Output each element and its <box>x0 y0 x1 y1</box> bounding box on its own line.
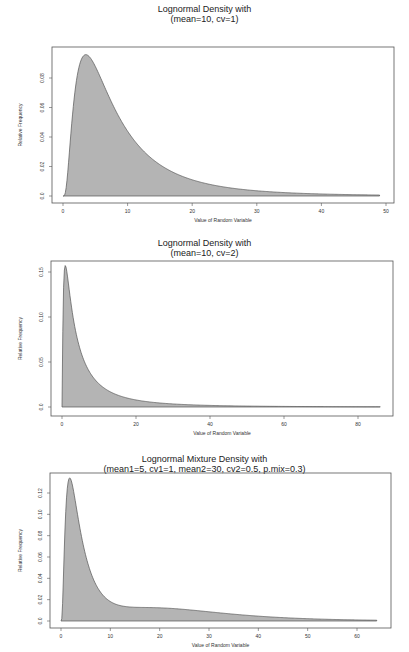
y-tick-label: 0.05 <box>38 357 44 367</box>
plots-canvas: 010203040500.00.020.040.060.08Value of R… <box>0 0 409 652</box>
x-tick-label: 40 <box>207 421 213 427</box>
x-axis-label: Value of Random Variable <box>193 430 251 436</box>
x-tick-label: 30 <box>254 208 260 214</box>
y-tick-label: 0.15 <box>38 267 44 277</box>
x-tick-label: 60 <box>281 421 287 427</box>
y-tick-label: 0.04 <box>37 573 43 583</box>
y-tick-label: 0.02 <box>37 595 43 605</box>
y-tick-label: 0.06 <box>39 102 45 112</box>
x-tick-label: 40 <box>256 633 262 639</box>
x-tick-label: 40 <box>319 208 325 214</box>
y-tick-label: 0.06 <box>37 552 43 562</box>
density-area <box>61 478 377 621</box>
chart-3: 01020304050600.00.020.040.060.080.100.12… <box>17 473 391 648</box>
x-tick-label: 10 <box>108 633 114 639</box>
x-tick-label: 80 <box>355 421 361 427</box>
density-area <box>62 266 380 407</box>
x-axis-label: Value of Random Variable <box>192 642 250 648</box>
x-tick-label: 50 <box>305 633 311 639</box>
x-tick-label: 60 <box>354 633 360 639</box>
y-tick-label: 0.0 <box>37 617 43 624</box>
y-axis-label: Relative Frequency <box>17 316 23 360</box>
x-axis-label: Value of Random Variable <box>194 217 252 223</box>
y-tick-label: 0.10 <box>37 509 43 519</box>
x-tick-label: 10 <box>125 208 131 214</box>
y-tick-label: 0.08 <box>39 73 45 83</box>
y-tick-label: 0.0 <box>38 403 44 410</box>
x-tick-label: 30 <box>206 633 212 639</box>
y-axis-label: Relative Frequency <box>17 528 23 572</box>
x-tick-label: 20 <box>189 208 195 214</box>
y-tick-label: 0.08 <box>37 531 43 541</box>
x-tick-label: 20 <box>157 633 163 639</box>
x-tick-label: 0 <box>60 633 63 639</box>
density-area <box>63 55 380 196</box>
chart-1: 010203040500.00.020.040.060.08Value of R… <box>17 47 394 223</box>
y-tick-label: 0.10 <box>38 312 44 322</box>
y-tick-label: 0.02 <box>39 161 45 171</box>
x-tick-label: 0 <box>62 208 65 214</box>
y-tick-label: 0.0 <box>39 192 45 199</box>
x-tick-label: 50 <box>383 208 389 214</box>
x-tick-label: 0 <box>61 421 64 427</box>
chart-2: 0204060800.00.050.100.15Value of Random … <box>17 261 393 436</box>
y-tick-label: 0.04 <box>39 132 45 142</box>
y-tick-label: 0.12 <box>37 488 43 498</box>
x-tick-label: 20 <box>133 421 139 427</box>
y-axis-label: Relative Frequency <box>17 103 23 147</box>
